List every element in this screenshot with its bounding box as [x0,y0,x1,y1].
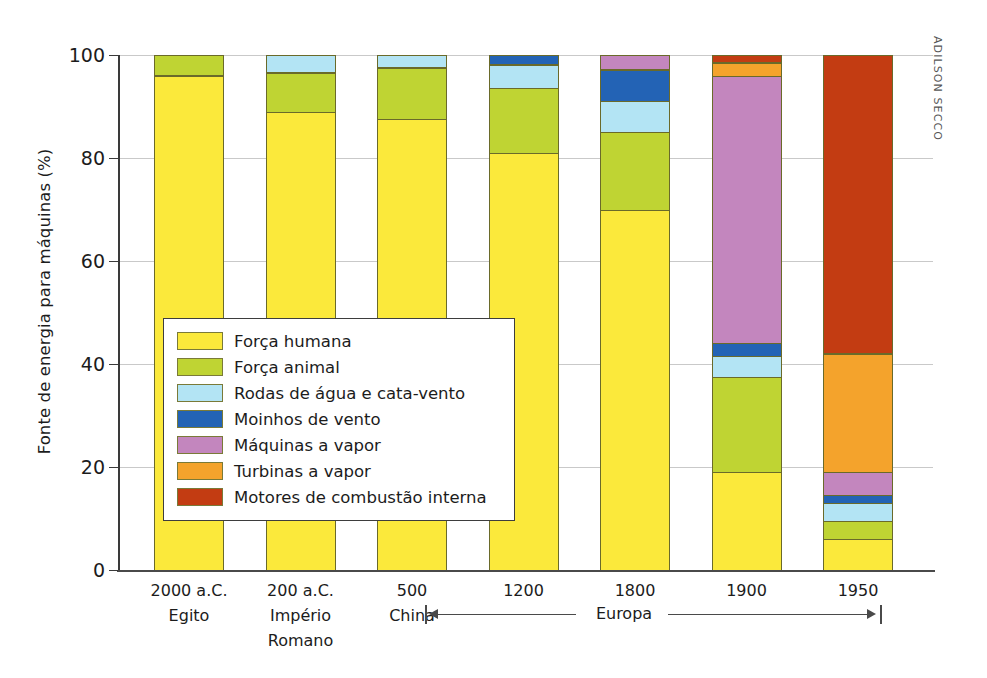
legend-item[interactable]: Moinhos de vento [177,406,502,432]
y-tick-mark [109,364,118,365]
legend-label: Moinhos de vento [234,410,381,429]
x-tick-label: 2000 a.C. [151,581,228,600]
bar-segment [712,63,782,76]
bar-segment [600,70,670,101]
bar-segment [823,354,893,472]
y-tick-label: 60 [81,250,105,272]
bar-segment [712,55,782,63]
europa-rule-right [668,614,874,615]
legend-label: Turbinas a vapor [234,462,371,481]
bar-segment [823,503,893,521]
bar-segment [823,472,893,495]
bar-1900 [712,55,782,570]
legend: Força humanaForça animalRodas de água e … [163,318,515,521]
europa-label: Europa [576,604,672,623]
y-tick-mark [109,158,118,159]
bar-segment [712,472,782,570]
legend-swatch [177,384,223,402]
bar-segment [266,73,336,112]
legend-label: Máquinas a vapor [234,436,381,455]
legend-item[interactable]: Rodas de água e cata-vento [177,380,502,406]
y-tick-mark [109,467,118,468]
x-axis-line [117,570,935,572]
bar-1950 [823,55,893,570]
y-axis-title: Fonte de energia para máquinas (%) [35,72,54,532]
x-tick-label: 1800 [615,581,656,600]
bar-segment [154,55,224,76]
legend-item[interactable]: Força humana [177,328,502,354]
bar-segment [266,55,336,73]
x-tick-label: 1900 [726,581,767,600]
legend-label: Motores de combustão interna [234,488,487,507]
bar-segment [712,343,782,356]
bar-segment [600,55,670,70]
x-tick-group: 1200 [459,578,589,603]
legend-swatch [177,410,223,428]
bar-segment [600,210,670,571]
bar-segment [823,521,893,539]
legend-swatch [177,358,223,376]
legend-item[interactable]: Força animal [177,354,502,380]
x-tick-group: 2000 a.C.Egito [124,578,254,628]
bar-segment [823,539,893,570]
x-tick-group: 200 a.C.ImpérioRomano [236,578,366,653]
y-tick-label: 20 [81,456,105,478]
bar-segment [600,101,670,132]
bar-segment [489,88,559,152]
bar-segment [712,76,782,344]
europa-rule-left [432,614,582,615]
legend-swatch [177,462,223,480]
x-tick-label: 1200 [503,581,544,600]
legend-item[interactable]: Motores de combustão interna [177,484,502,510]
bar-segment [377,55,447,68]
y-tick-label: 80 [81,147,105,169]
legend-label: Força animal [234,358,340,377]
x-tick-label: 500 [397,581,428,600]
y-tick-label: 0 [93,559,105,581]
bar-segment [712,377,782,472]
x-tick-group: 1900 [682,578,812,603]
x-tick-sublabel: Romano [236,628,366,653]
y-tick-mark [109,261,118,262]
x-tick-label: 200 a.C. [267,581,334,600]
chart-figure: Fonte de energia para máquinas (%) 02040… [0,0,987,678]
y-tick-mark [109,55,118,56]
bar-segment [823,55,893,354]
europa-left-cap [425,605,427,624]
bar-segment [712,356,782,377]
bar-segment [489,55,559,65]
bar-segment [823,495,893,503]
europa-right-cap [880,605,882,624]
legend-item[interactable]: Máquinas a vapor [177,432,502,458]
europa-range-annotation: Europa [424,604,889,626]
credit-text: ADILSON SECCO [931,36,944,141]
bar-segment [489,65,559,88]
x-tick-sublabel: Império [236,603,366,628]
y-axis-line [118,55,120,570]
bar-segment [377,68,447,120]
y-tick-label: 40 [81,353,105,375]
legend-swatch [177,488,223,506]
legend-label: Rodas de água e cata-vento [234,384,465,403]
bar-1800 [600,55,670,570]
x-tick-group: 1800 [570,578,700,603]
bar-segment [600,132,670,209]
x-tick-group: 1950 [793,578,923,603]
legend-swatch [177,332,223,350]
x-tick-sublabel: Egito [124,603,254,628]
legend-item[interactable]: Turbinas a vapor [177,458,502,484]
legend-label: Força humana [234,332,352,351]
x-tick-label: 1950 [838,581,879,600]
y-tick-mark [109,570,118,571]
europa-right-arrow-icon [867,609,876,619]
legend-swatch [177,436,223,454]
y-tick-label: 100 [69,44,105,66]
